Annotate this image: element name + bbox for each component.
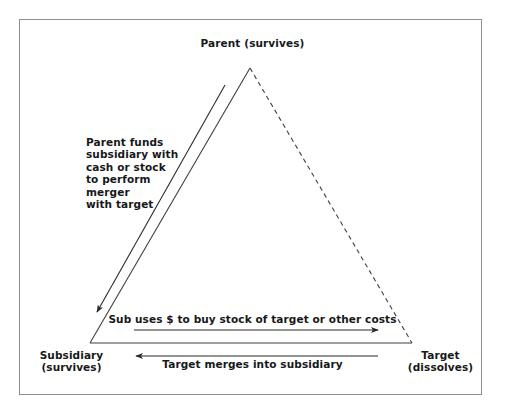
node-label-subsidiary: Subsidiary (survives) (24, 349, 119, 374)
node-label-target: Target (dissolves) (393, 349, 488, 374)
node-label-parent: Parent (survives) (0, 37, 505, 49)
merger-diagram-figure: Parent (survives) Parent funds subsidiar… (0, 0, 505, 417)
annotation-sub-uses-dollars: Sub uses $ to buy stock of target or oth… (0, 313, 505, 325)
edge-parent-target (250, 68, 412, 343)
annotation-parent-funds: Parent funds subsidiary with cash or sto… (86, 136, 196, 210)
